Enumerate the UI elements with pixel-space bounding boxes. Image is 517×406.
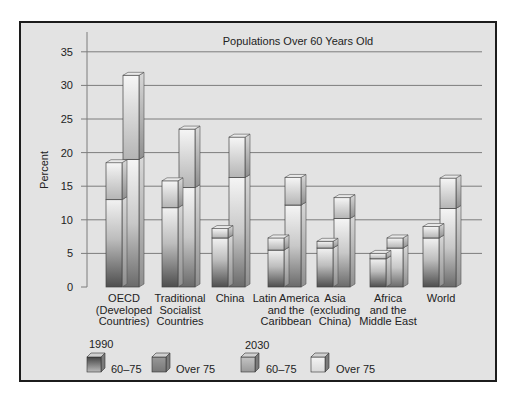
x-tick-label: Asia [324,292,346,304]
y-tick-label: 30 [61,79,73,91]
x-tick-label: Caribbean [261,315,312,327]
y-tick-label: 0 [67,281,73,293]
bar-segment [106,160,127,200]
bar-segment [285,174,306,205]
bar-segment [370,250,391,258]
bar-segment [212,235,233,287]
bar-segment [370,256,391,287]
bar-segment [162,178,183,208]
bar-segment [317,245,338,287]
x-tick-label: Latin America [253,292,321,304]
x-tick-label: Middle East [359,315,416,327]
y-tick-label: 15 [61,180,73,192]
x-axis-labels: OECD(DevelopedCountries)TraditionalSocia… [96,292,455,327]
bar-segment [317,238,338,248]
x-tick-label: Traditional [155,292,206,304]
bar-group [370,235,408,287]
y-tick-label: 10 [61,214,73,226]
bar-segment [268,235,289,250]
bar-segment [334,195,355,219]
bar-segment [423,224,444,238]
legend-2030-60-75: 60–75 [266,363,297,375]
legend-2030-over-75: Over 75 [336,363,375,375]
bar-segment [387,235,408,248]
bar-segment [440,175,461,208]
bar-group [106,72,144,287]
bar-segment [229,134,250,177]
legend-year-2030: 2030 [245,339,269,351]
bar-segment [268,247,289,287]
bar-segment [123,72,144,159]
legend-1990-over-75: Over 75 [176,363,215,375]
legend-1990-60-75: 60–75 [111,363,142,375]
x-tick-label: and the [268,304,305,316]
bars [106,72,461,287]
chart-title: Populations Over 60 Years Old [223,35,373,47]
x-tick-label: (excluding [310,304,360,316]
x-tick-label: China) [319,315,351,327]
x-tick-label: Africa [374,292,403,304]
x-tick-label: OECD [108,292,140,304]
x-tick-label: World [427,292,456,304]
bar-segment [212,226,233,238]
bar-group [317,195,355,287]
bar-segment [106,197,127,287]
x-tick-label: (Developed [96,304,152,316]
y-tick-label: 35 [61,46,73,58]
x-tick-label: Countries [156,315,204,327]
gridlines [87,52,482,254]
y-axis-label: Percent [38,151,50,189]
bar-group [212,134,250,287]
bar-segment [162,205,183,287]
y-tick-label: 25 [61,113,73,125]
x-tick-label: Socialist [160,304,201,316]
y-tick-label: 5 [67,247,73,259]
x-tick-label: China [216,292,246,304]
bar-group [162,126,200,287]
bar-segment [423,235,444,287]
x-tick-label: Countries) [99,315,150,327]
x-tick-label: and the [370,304,407,316]
bar-group [268,174,306,287]
y-axis: 05101520253035 [61,32,87,293]
y-tick-label: 20 [61,147,73,159]
legend-year-1990: 1990 [89,338,113,350]
bar-group [423,175,461,287]
